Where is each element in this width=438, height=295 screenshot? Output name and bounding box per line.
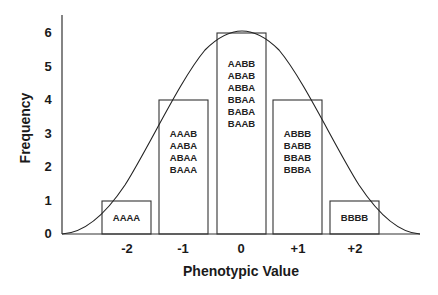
y-tick: 1 [44,193,51,208]
genotype-label: BAAA [170,164,198,175]
x-tick: 0 [237,241,244,256]
y-tick: 5 [44,59,51,74]
bar-annotation-plus-2: BBBB [341,212,369,223]
y-axis-label: Frequency [17,92,33,163]
y-tick: 6 [44,25,51,40]
bar-annotation-minus-2: AAAA [113,212,141,223]
genotype-label: BBAB [284,152,312,163]
x-tick: -2 [121,241,133,256]
genotype-label: BABB [284,140,312,151]
y-tick: 2 [44,159,51,174]
x-tick: -1 [177,241,189,256]
genotype-label: BBBB [341,212,369,223]
y-tick: 3 [44,126,51,141]
genotype-label: BABA [228,106,256,117]
genotype-label: ABBA [228,82,256,93]
genotype-label: AAAB [170,128,198,139]
genotype-label: ABAA [170,152,198,163]
x-axis-label: Phenotypic Value [183,263,299,279]
genotype-label: BBBA [284,164,312,175]
x-tick: +1 [291,241,306,256]
genotype-label: AABB [228,58,256,69]
x-tick-labels: -2 -1 0 +1 +2 [121,241,362,256]
genotype-label: AAAA [113,212,141,223]
genotype-label: BBAA [228,94,256,105]
genotype-label: AABA [170,140,198,151]
bar-annotation-plus-1: ABBB BABB BBAB BBBA [284,128,312,175]
x-tick: +2 [348,241,363,256]
y-tick: 0 [44,226,51,241]
y-tick: 4 [44,92,52,107]
bar-annotation-minus-1: AAAB AABA ABAA BAAA [170,128,198,175]
genotype-label: BAAB [228,118,256,129]
bar-annotation-0: AABB ABAB ABBA BBAA BABA BAAB [228,58,256,129]
chart: 0 1 2 3 4 5 6 Frequency AAAA AAAB AABA A… [0,0,438,295]
y-tick-labels: 0 1 2 3 4 5 6 [44,25,52,241]
genotype-label: ABBB [284,128,312,139]
genotype-label: ABAB [228,70,256,81]
